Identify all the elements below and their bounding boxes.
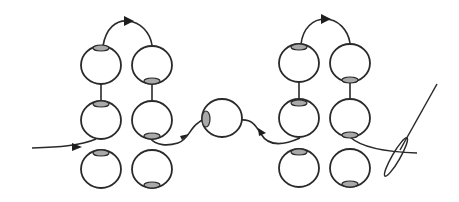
bead-hole (291, 149, 307, 155)
bead-hole (93, 150, 109, 156)
bead (330, 44, 370, 82)
bead-hole (291, 100, 307, 106)
thread-right-arc (301, 19, 350, 44)
bead-hole (342, 181, 358, 187)
thread-entry (32, 139, 96, 148)
bead-hole (144, 78, 160, 84)
arrow-icon (124, 16, 134, 26)
needle-icon (382, 84, 437, 178)
bead-hole (342, 77, 358, 83)
bead-hole (93, 45, 109, 51)
left-ladder (81, 45, 172, 188)
bead-hole (93, 101, 109, 107)
right-ladder (279, 44, 370, 187)
bead-hole (144, 133, 160, 139)
connector-bead (202, 99, 242, 137)
thread-left-arc (103, 21, 152, 46)
bead (330, 99, 370, 137)
bead-hole (202, 111, 210, 127)
bead-hole (291, 44, 307, 50)
bead-hole (144, 182, 160, 188)
beading-diagram (0, 0, 459, 202)
arrow-icon (321, 14, 331, 24)
bead-hole (342, 132, 358, 138)
bead (81, 46, 121, 84)
